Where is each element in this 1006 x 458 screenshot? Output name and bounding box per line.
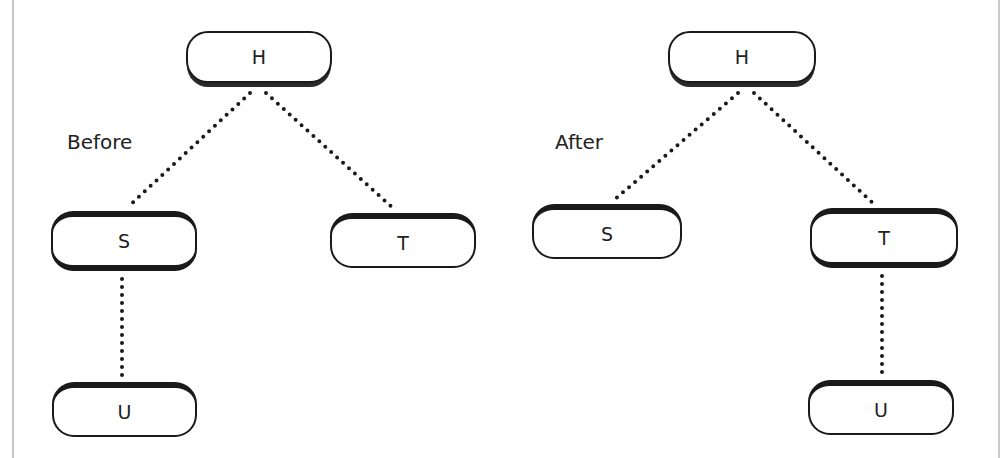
edge-after-h-s xyxy=(613,93,738,201)
caption-after: After xyxy=(555,130,603,154)
edge-after-h-t xyxy=(754,93,875,205)
before-node-h: H xyxy=(186,31,332,83)
after-node-u: U xyxy=(808,380,954,435)
after-node-h: H xyxy=(668,31,816,83)
before-node-u: U xyxy=(52,382,197,437)
caption-before: Before xyxy=(67,130,132,154)
before-node-t: T xyxy=(330,213,476,268)
before-node-s: S xyxy=(51,211,197,271)
after-node-s: S xyxy=(532,204,682,259)
edge-before-h-s xyxy=(128,93,250,207)
after-node-t: T xyxy=(810,208,958,268)
edge-before-h-t xyxy=(266,93,395,210)
